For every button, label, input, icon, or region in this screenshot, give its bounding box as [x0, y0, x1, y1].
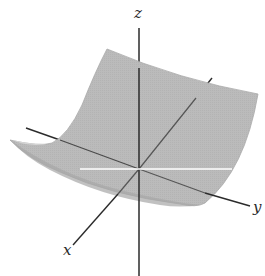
axes-front	[73, 193, 250, 276]
parabolic-surface	[10, 49, 258, 207]
y-axis-back	[26, 128, 60, 140]
x-axis-label: x	[63, 243, 71, 258]
y-axis-label: y	[253, 200, 261, 215]
surface-figure: z y x	[0, 0, 265, 276]
z-axis-label: z	[134, 6, 142, 21]
